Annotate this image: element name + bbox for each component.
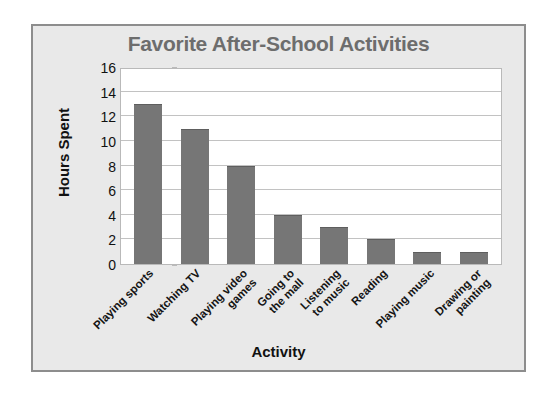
bar-slot (451, 69, 498, 264)
bar-slot (218, 69, 265, 264)
bar-slot (265, 69, 312, 264)
y-axis-tick-labels: 0246810121416 (88, 68, 116, 265)
y-axis-tick-label: 10 (100, 134, 116, 150)
y-axis-tick-label: 2 (108, 232, 116, 248)
bar-slot (125, 69, 172, 264)
chart-title: Favorite After-School Activities (33, 32, 524, 56)
y-axis-tick-label: 4 (108, 208, 116, 224)
y-axis-title: Hours Spent (55, 93, 72, 213)
plot-area-wrapper (120, 68, 502, 265)
bar[interactable] (413, 252, 441, 264)
bar[interactable] (320, 227, 348, 264)
y-axis-tick-label: 12 (100, 109, 116, 125)
bar[interactable] (367, 239, 395, 264)
y-axis-tick-label: 6 (108, 183, 116, 199)
x-axis-tick-label: Playing sports (70, 267, 157, 354)
bar-slot (311, 69, 358, 264)
bar[interactable] (181, 129, 209, 264)
x-axis-title: Activity (33, 343, 524, 360)
bar[interactable] (274, 215, 302, 264)
bar[interactable] (134, 104, 162, 264)
bar[interactable] (227, 166, 255, 265)
bar[interactable] (460, 252, 488, 264)
y-axis-tick-label: 14 (100, 85, 116, 101)
plot-area (120, 68, 502, 265)
chart-frame: Favorite After-School Activities Hours S… (31, 24, 526, 372)
bar-slot (358, 69, 405, 264)
bar-series (121, 69, 501, 264)
y-axis-tick-label: 0 (108, 257, 116, 273)
y-axis-tick-label: 8 (108, 159, 116, 175)
y-axis-tick-label: 16 (100, 60, 116, 76)
bar-slot (404, 69, 451, 264)
bar-slot (172, 69, 219, 264)
